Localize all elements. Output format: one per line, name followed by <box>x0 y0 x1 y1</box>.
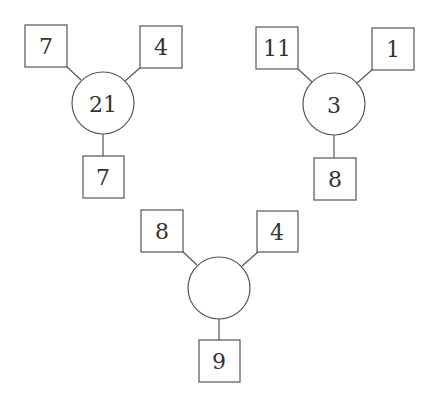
puzzle-canvas: 7 4 21 7 11 1 3 8 8 4 9 <box>0 0 438 403</box>
connector-top-right <box>125 67 141 81</box>
connector-top-left <box>66 66 81 80</box>
box-top-right-value: 4 <box>154 35 168 60</box>
connector-top-right <box>357 69 373 83</box>
diagram-1: 7 4 21 7 <box>25 25 182 198</box>
connector-top-left <box>297 68 312 82</box>
connector-top-left <box>182 251 197 265</box>
box-bottom-value: 7 <box>96 165 110 190</box>
center-circle-empty <box>188 257 250 319</box>
box-top-left-value: 8 <box>155 219 169 244</box>
box-top-right-value: 1 <box>386 37 400 62</box>
box-bottom-value: 8 <box>328 167 342 192</box>
center-value: 21 <box>89 92 117 117</box>
connector-top-right <box>242 252 258 266</box>
box-bottom-value: 9 <box>212 349 226 374</box>
center-value: 3 <box>327 93 341 118</box>
box-top-left-value: 7 <box>39 34 53 59</box>
diagram-2: 11 1 3 8 <box>256 27 414 200</box>
diagram-3: 8 4 9 <box>141 210 298 382</box>
box-top-right-value: 4 <box>270 220 284 245</box>
box-top-left-value: 11 <box>263 36 291 61</box>
